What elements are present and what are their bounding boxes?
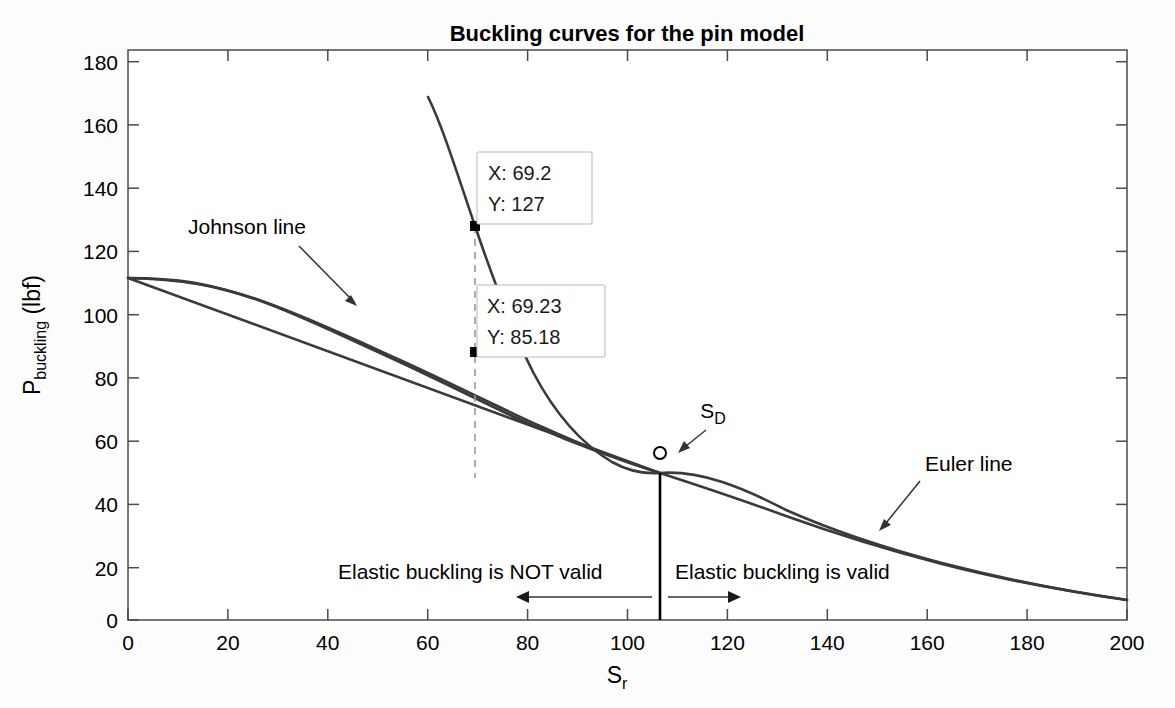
x-ticklabel-140: 140 (810, 631, 845, 654)
euler-line-label: Euler line (925, 452, 1013, 475)
y-axis-title-main: P (19, 380, 45, 395)
not-valid-label: Elastic buckling is NOT valid (338, 560, 603, 583)
valid-label: Elastic buckling is valid (675, 560, 890, 583)
y-ticklabel-0: 0 (106, 609, 118, 632)
figure-root: Buckling curves for the pin model 180 (0, 0, 1175, 708)
x-ticklabel-40: 40 (316, 631, 339, 654)
x-axis-title-sub: r (622, 675, 628, 692)
y-ticklabel-120: 120 (83, 240, 118, 263)
x-ticklabel-0: 0 (122, 631, 134, 654)
buckling-chart: Buckling curves for the pin model 180 (0, 0, 1175, 708)
plot-background (128, 50, 1127, 620)
johnson-datatip-x: X: 69.23 (487, 295, 562, 317)
x-ticklabel-80: 80 (516, 631, 539, 654)
x-ticklabel-20: 20 (216, 631, 239, 654)
x-ticklabel-120: 120 (710, 631, 745, 654)
sd-label-sub: D (714, 410, 726, 427)
y-ticklabel-140: 140 (83, 177, 118, 200)
x-ticklabel-100: 100 (610, 631, 645, 654)
johnson-line-label: Johnson line (188, 215, 306, 238)
x-axis-title-main: S (607, 662, 622, 688)
y-ticklabel-40: 40 (95, 493, 118, 516)
euler-datatip-y: Y: 127 (488, 193, 545, 215)
x-ticklabel-160: 160 (910, 631, 945, 654)
x-ticklabel-180: 180 (1010, 631, 1045, 654)
y-ticklabel-160: 160 (83, 114, 118, 137)
y-axis-title-unit: (lbf) (19, 275, 45, 321)
sd-label-main: S (700, 399, 714, 422)
x-ticklabel-60: 60 (416, 631, 439, 654)
johnson-datatip-y: Y: 85.18 (487, 326, 560, 348)
y-ticklabel-60: 60 (95, 430, 118, 453)
y-axis-title-sub: buckling (32, 321, 49, 380)
johnson-datatip[interactable]: X: 69.23 Y: 85.18 (477, 285, 605, 357)
y-ticklabel-80: 80 (95, 367, 118, 390)
x-ticklabel-200: 200 (1109, 631, 1144, 654)
sd-intersection-marker[interactable] (654, 447, 666, 459)
euler-datatip[interactable]: X: 69.2 Y: 127 (477, 152, 592, 224)
y-ticklabel-20: 20 (95, 557, 118, 580)
page-title: Buckling curves for the pin model (450, 21, 805, 46)
y-ticklabel-180: 180 (83, 51, 118, 74)
y-ticklabel-100: 100 (83, 304, 118, 327)
euler-datatip-x: X: 69.2 (488, 162, 551, 184)
